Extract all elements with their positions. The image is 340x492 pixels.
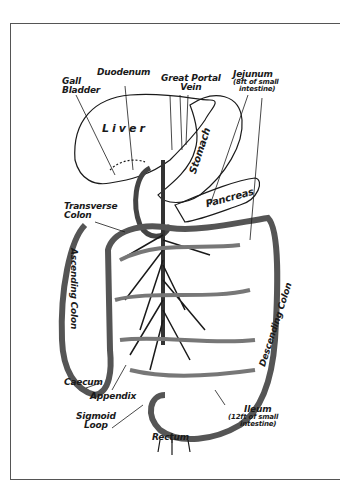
label-appendix: Appendix xyxy=(90,392,136,401)
label-ascending-colon: Ascending Colon xyxy=(69,248,78,329)
label-line: Vein xyxy=(161,83,221,92)
label-line: intestine) xyxy=(233,86,279,93)
label-great-portal-vein: Great Portal Vein xyxy=(161,74,221,92)
label-transverse-colon: Transverse Colon xyxy=(64,202,117,220)
label-ileum: Ileum (12ft of small intestine) xyxy=(228,405,278,428)
label-caecum: Caecum xyxy=(64,378,103,387)
label-rectum: Rectum xyxy=(152,433,189,442)
label-duodenum: Duodenum xyxy=(97,68,150,77)
label-gall-bladder: Gall Bladder xyxy=(62,77,100,95)
label-line: Loop xyxy=(76,421,116,430)
label-jejunum: Jejunum (8ft of small intestine) xyxy=(233,70,279,93)
label-sigmoid-loop: Sigmoid Loop xyxy=(76,412,116,430)
label-line: Bladder xyxy=(62,86,100,95)
label-liver: Liver xyxy=(102,124,148,133)
label-line: Colon xyxy=(64,211,117,220)
label-line: intestine) xyxy=(228,421,278,428)
